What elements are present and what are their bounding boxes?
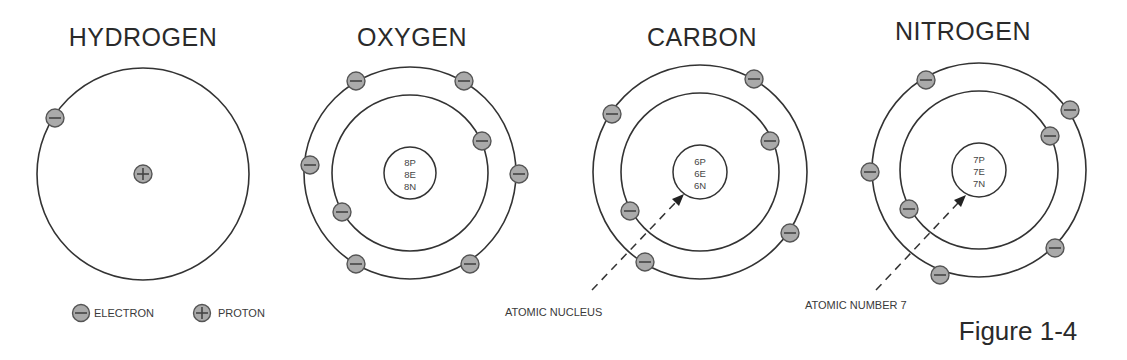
legend-electron-label: ELECTRON <box>94 307 154 319</box>
nitrogen-atom: 7P7E7N <box>861 63 1086 284</box>
electron-icon <box>781 224 799 242</box>
nucleus: 6P6E6N <box>673 145 727 199</box>
nucleus-count: 6N <box>694 180 706 191</box>
atomic-number-label: ATOMIC NUMBER 7 <box>805 299 907 311</box>
hydrogen-atom <box>37 68 249 280</box>
nucleus-count: 6P <box>694 156 706 167</box>
nucleus: 8P8E8N <box>384 147 436 199</box>
electron-icon <box>603 105 621 123</box>
electron-icon <box>745 70 763 88</box>
electron-icon <box>510 165 528 183</box>
atom-title-oxygen: OXYGEN <box>357 23 467 51</box>
atom-title-carbon: CARBON <box>647 23 757 51</box>
oxygen-atom: 8P8E8N <box>301 67 528 279</box>
nucleus-count: 7E <box>973 166 985 177</box>
nucleus-count: 8E <box>404 169 416 180</box>
legend-proton-label: PROTON <box>218 307 265 319</box>
electron-icon <box>1061 101 1079 119</box>
electron-icon <box>347 255 365 273</box>
electron-icon <box>1041 127 1059 145</box>
proton-icon <box>134 165 152 183</box>
electron-icon <box>473 132 491 150</box>
electron-icon <box>931 266 949 284</box>
electron-icon <box>301 156 319 174</box>
nucleus-count: 7P <box>973 154 985 165</box>
electron-icon <box>455 72 473 90</box>
legend-proton-icon <box>194 305 211 322</box>
electron-icon <box>347 72 365 90</box>
nucleus: 7P7E7N <box>952 143 1006 197</box>
nucleus-count: 6E <box>694 168 706 179</box>
electron-icon <box>636 253 654 271</box>
atomic-number-arrow <box>876 195 966 290</box>
figure-label: Figure 1-4 <box>959 316 1078 346</box>
electron-icon <box>861 163 879 181</box>
atom-title-nitrogen: NITROGEN <box>895 17 1031 45</box>
electron-icon <box>900 200 918 218</box>
nucleus-count: 7N <box>973 178 985 189</box>
electron-icon <box>1046 239 1064 257</box>
electron-icon <box>761 132 779 150</box>
atomic-structure-diagram: HYDROGEN OXYGEN CARBON NITROGEN 8P8E8N 6… <box>0 0 1127 360</box>
nucleus-count: 8P <box>404 157 416 168</box>
electron-icon <box>461 255 479 273</box>
electron-icon <box>333 203 351 221</box>
nucleus-count: 8N <box>404 181 416 192</box>
atom-title-hydrogen: HYDROGEN <box>69 23 217 51</box>
electron-icon <box>621 202 639 220</box>
carbon-atom: 6P6E6N <box>593 65 807 279</box>
electron-icon <box>917 71 935 89</box>
legend-electron-icon <box>73 305 90 322</box>
electron-icon <box>46 109 64 127</box>
atomic-nucleus-label: ATOMIC NUCLEUS <box>505 306 602 318</box>
legend: ELECTRON PROTON <box>73 305 265 322</box>
